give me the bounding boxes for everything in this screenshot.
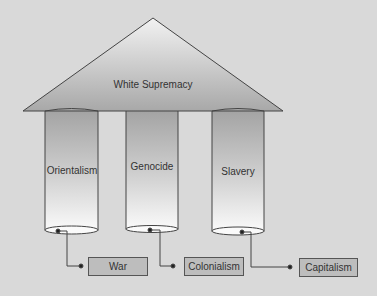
pillar-label-slavery: Slavery <box>221 166 254 177</box>
pillar-label-genocide: Genocide <box>131 161 174 172</box>
outcome-box-war: War <box>88 257 148 276</box>
connector-genocide-colonialism <box>148 228 175 268</box>
roof-white-supremacy <box>23 18 283 111</box>
roof-label: White Supremacy <box>114 79 193 90</box>
outcome-box-capitalism: Capitalism <box>299 258 358 277</box>
pillar-label-orientalism: Orientalism <box>47 165 98 176</box>
temple-diagram-graphic <box>0 0 377 296</box>
diagram-canvas: White Supremacy Orientalism Genocide Sla… <box>0 0 377 296</box>
outcome-box-colonialism: Colonialism <box>184 257 244 276</box>
connector-orientalism-war <box>56 229 83 268</box>
connector-slavery-capitalism <box>240 230 292 269</box>
